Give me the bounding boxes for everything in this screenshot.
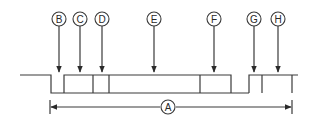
- callout-e: E: [147, 12, 161, 72]
- callout-d: D: [95, 12, 109, 72]
- callout-c-label: C: [76, 14, 83, 25]
- labeled-waveform-diagram: A BCDEFGH: [0, 0, 314, 126]
- callout-h-label: H: [274, 14, 281, 25]
- callout-b-label: B: [56, 14, 63, 25]
- callout-d-label: D: [98, 14, 105, 25]
- callout-f: F: [207, 12, 221, 72]
- waveform-outline: [20, 75, 298, 93]
- callout-g: G: [247, 12, 261, 72]
- callout-c: C: [73, 12, 87, 72]
- callout-h: H: [271, 12, 285, 72]
- callout-g-label: G: [250, 14, 258, 25]
- callout-a-label: A: [165, 102, 172, 113]
- callout-f-label: F: [211, 14, 217, 25]
- callout-b: B: [52, 12, 66, 72]
- callout-e-label: E: [151, 14, 158, 25]
- callout-a: A: [161, 100, 175, 114]
